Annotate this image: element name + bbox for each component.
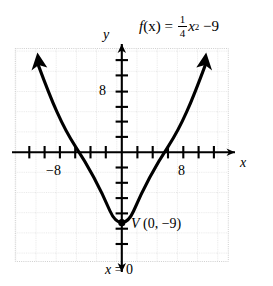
equation-constant: −9 [203, 18, 219, 35]
vertex-annotation: V (0, −9) [131, 216, 181, 232]
vertex-coordinates: (0, −9) [140, 216, 182, 231]
y-axis-label: y [103, 27, 109, 43]
x-tick-label-negative-8: −8 [46, 163, 61, 179]
axis-of-symmetry-annotation: x = 0 [105, 262, 133, 278]
equation-fraction-denominator: 4 [178, 28, 188, 39]
vertex-letter: V [131, 216, 140, 231]
x-axis-label: x [240, 155, 246, 171]
equation-exponent: 2 [195, 22, 200, 32]
graph-figure: f(x) = 14x2 −9 y x 8 8 −8 V (0, −9) x = … [0, 0, 273, 286]
equation-fraction-numerator: 1 [178, 14, 188, 25]
equation-farg: (x) [143, 18, 161, 35]
equation-equals: = [164, 18, 172, 35]
x-tick-label-8: 8 [178, 163, 185, 179]
axis-of-symmetry-equation: = 0 [111, 262, 133, 277]
y-tick-label-8: 8 [99, 83, 106, 99]
equation-fraction: 14 [178, 14, 188, 39]
function-equation-label: f(x) = 14x2 −9 [139, 14, 219, 39]
equation-variable: x [188, 18, 195, 35]
coordinate-plane-svg [0, 0, 273, 286]
